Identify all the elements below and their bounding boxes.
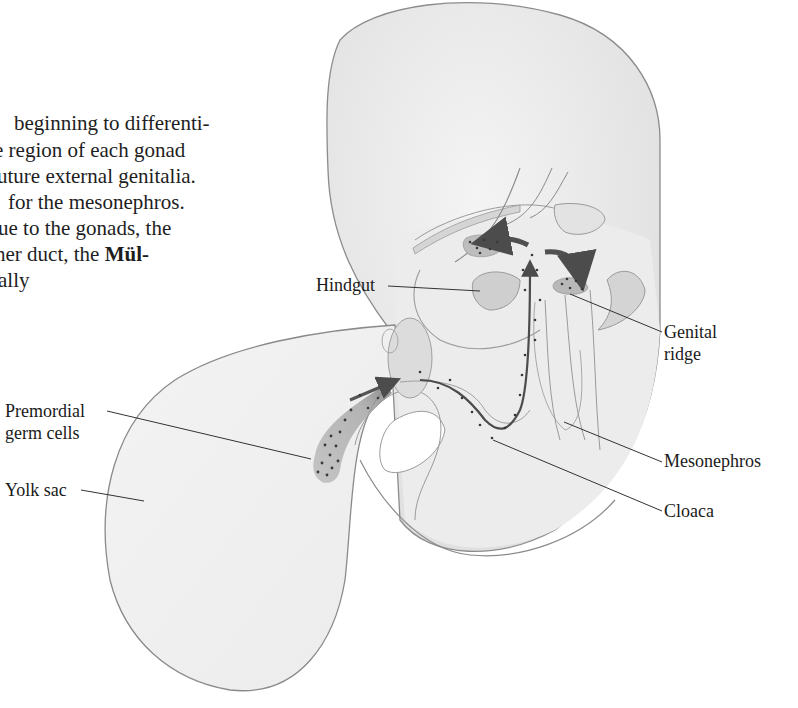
yolk-sac bbox=[105, 325, 396, 691]
label-genital-ridge-line2: ridge bbox=[664, 344, 701, 365]
label-mesonephros: Mesonephros bbox=[664, 451, 761, 472]
label-yolk-sac: Yolk sac bbox=[5, 480, 67, 501]
label-genital-ridge-line1: Genital bbox=[664, 322, 717, 343]
label-cloaca: Cloaca bbox=[664, 501, 714, 522]
label-premordial-line1: Premordial bbox=[5, 401, 85, 422]
allantois bbox=[388, 318, 432, 398]
label-hindgut: Hindgut bbox=[316, 275, 375, 296]
label-premordial-line2: germ cells bbox=[5, 423, 79, 444]
